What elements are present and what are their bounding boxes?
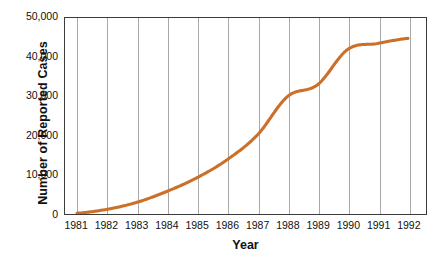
y-tick-label: 20,000 [2, 130, 58, 141]
plot-area [64, 17, 427, 215]
y-tick-label: 50,000 [2, 11, 58, 22]
chart-figure: Number of Reported Cases 010,00020,00030… [0, 0, 440, 272]
x-tick-label: 1981 [64, 219, 87, 231]
x-tick-label: 1989 [306, 219, 329, 231]
x-tick-label: 1987 [246, 219, 269, 231]
y-tick-label: 10,000 [2, 169, 58, 180]
x-tick-label: 1988 [276, 219, 299, 231]
x-tick-label: 1985 [185, 219, 208, 231]
x-axis-tick-labels: 1981198219831984198519861987198819891990… [64, 219, 427, 235]
x-tick-label: 1992 [397, 219, 420, 231]
x-tick-label: 1986 [216, 219, 239, 231]
line-series-reported-cases [65, 18, 426, 214]
y-tick-label: 30,000 [2, 90, 58, 101]
x-tick-label: 1990 [337, 219, 360, 231]
x-tick-label: 1983 [125, 219, 148, 231]
x-axis-title: Year [64, 238, 427, 252]
x-tick-label: 1991 [367, 219, 390, 231]
y-tick-label: 40,000 [2, 51, 58, 62]
x-tick-label: 1984 [155, 219, 178, 231]
x-tick-label: 1982 [95, 219, 118, 231]
y-axis-tick-labels: 010,00020,00030,00040,00050,000 [2, 0, 58, 272]
y-tick-label: 0 [2, 209, 58, 220]
